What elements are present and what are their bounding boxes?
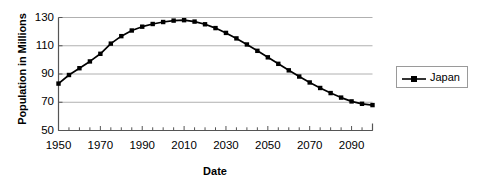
line-marker-icon — [401, 71, 427, 83]
data-point-marker — [151, 22, 155, 26]
data-point-marker — [140, 24, 144, 28]
data-point-marker — [339, 95, 343, 99]
series-line — [59, 20, 373, 105]
legend-label-japan: Japan — [430, 71, 460, 83]
data-point-marker — [297, 74, 301, 78]
data-point-marker — [130, 28, 134, 32]
data-point-marker — [192, 19, 196, 23]
data-point-marker — [287, 68, 291, 72]
data-point-marker — [182, 18, 186, 22]
data-point-marker — [88, 59, 92, 63]
data-point-marker — [245, 42, 249, 46]
data-point-marker — [67, 73, 71, 77]
plot-area — [0, 0, 483, 190]
data-series-japan — [56, 18, 374, 107]
data-point-marker — [360, 102, 364, 106]
legend-entry-japan: Japan — [397, 67, 467, 87]
population-line-chart: Population in Millions 130110907050 1950… — [0, 0, 483, 190]
data-point-marker — [328, 91, 332, 95]
data-point-marker — [119, 34, 123, 38]
gridlines — [59, 18, 373, 131]
data-point-marker — [213, 26, 217, 30]
data-point-marker — [308, 80, 312, 84]
data-point-marker — [255, 49, 259, 53]
data-point-marker — [171, 18, 175, 22]
data-point-marker — [370, 103, 374, 107]
x-axis-ticks — [59, 126, 373, 131]
data-point-marker — [276, 62, 280, 66]
data-point-marker — [203, 22, 207, 26]
data-point-marker — [98, 52, 102, 56]
data-point-marker — [77, 66, 81, 70]
data-point-marker — [56, 81, 60, 85]
legend: Japan — [396, 66, 468, 88]
data-point-marker — [318, 86, 322, 90]
data-point-marker — [161, 20, 165, 24]
data-point-marker — [234, 36, 238, 40]
data-point-marker — [109, 41, 113, 45]
data-point-marker — [266, 55, 270, 59]
data-point-marker — [224, 31, 228, 35]
data-point-marker — [349, 99, 353, 103]
